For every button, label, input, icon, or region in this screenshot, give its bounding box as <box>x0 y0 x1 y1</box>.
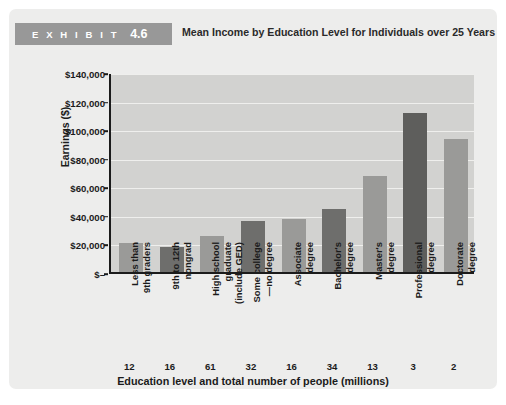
y-axis-tick-label: $40,000 <box>33 211 105 222</box>
x-axis-title: Education level and total number of peop… <box>9 375 497 387</box>
y-axis-tick-mark <box>104 159 108 161</box>
y-axis-tick-label: $120,000 <box>33 97 105 108</box>
x-axis-category-label: Doctorate degree <box>422 279 486 357</box>
x-axis-category-text: Doctorate degree <box>454 240 477 318</box>
exhibit-badge-number: 4.6 <box>130 27 147 41</box>
y-axis-tick-label: $20,000 <box>33 240 105 251</box>
y-axis-tick-label: $140,000 <box>33 69 105 80</box>
y-axis-tick-label: $100,000 <box>33 126 105 137</box>
y-axis-tick-mark <box>104 187 108 189</box>
y-axis-tick-label: $– <box>33 269 105 280</box>
y-axis-tick-label: $60,000 <box>33 183 105 194</box>
y-axis-tick-label: $80,000 <box>33 154 105 165</box>
y-axis-tick-mark <box>104 73 108 75</box>
gridline <box>111 103 474 104</box>
x-axis-count-label: 2 <box>422 361 486 372</box>
y-axis-tick-mark <box>104 216 108 218</box>
y-axis-tick-labels: $140,000$120,000$100,000$80,000$60,000$4… <box>29 74 105 274</box>
y-axis-tick-mark <box>104 273 108 275</box>
y-axis-tick-mark <box>104 130 108 132</box>
y-axis-tick-mark <box>104 102 108 104</box>
gridline <box>111 74 474 75</box>
exhibit-badge: E X H I B I T 4.6 <box>15 23 172 45</box>
exhibit-card: E X H I B I T 4.6 Mean Income by Educati… <box>9 9 497 389</box>
exhibit-badge-word: E X H I B I T <box>32 29 119 40</box>
bar-chart: Earnings ($) $140,000$120,000$100,000$80… <box>9 57 497 389</box>
y-axis-tick-mark <box>104 245 108 247</box>
exhibit-title: Mean Income by Education Level for Indiv… <box>182 26 495 38</box>
exhibit-header: E X H I B I T 4.6 Mean Income by Educati… <box>15 23 491 45</box>
